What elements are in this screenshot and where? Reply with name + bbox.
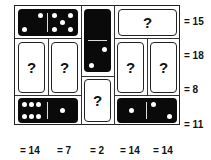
unknown-mark: ? xyxy=(143,14,152,31)
pip xyxy=(129,108,134,113)
pip xyxy=(68,13,73,18)
pip xyxy=(60,108,65,113)
grid-line xyxy=(114,6,115,125)
grid-line xyxy=(48,39,49,95)
col-sum-4: = 14 xyxy=(120,145,140,156)
domino-top-right[interactable]: ? xyxy=(118,9,177,36)
pip xyxy=(151,102,156,107)
domino-divider xyxy=(47,102,48,119)
pip xyxy=(52,13,57,18)
row-sum-3: = 8 xyxy=(184,84,198,95)
domino-bottom-right xyxy=(117,98,177,123)
unknown-mark: ? xyxy=(60,59,69,76)
domino-divider xyxy=(88,40,107,41)
unknown-mark: ? xyxy=(126,59,135,76)
col-sum-5: = 14 xyxy=(153,145,173,156)
col-sum-1: = 14 xyxy=(20,145,40,156)
pip xyxy=(68,27,73,32)
grid-line xyxy=(147,39,148,95)
row-sum-1: = 15 xyxy=(184,16,204,27)
unknown-mark: ? xyxy=(27,59,36,76)
pip xyxy=(22,114,27,119)
domino-center-top xyxy=(84,9,111,72)
pip xyxy=(102,47,107,52)
row-sum-4: = 11 xyxy=(184,119,203,130)
pip xyxy=(29,102,34,107)
domino-mid-col2[interactable]: ? xyxy=(51,42,78,93)
domino-mid-col1[interactable]: ? xyxy=(18,42,45,93)
unknown-mark: ? xyxy=(159,59,168,76)
pip xyxy=(22,102,27,107)
domino-divider xyxy=(47,13,48,32)
puzzle-grid: ? ? ? ? ? ? xyxy=(14,5,180,125)
domino-center-bottom[interactable]: ? xyxy=(84,79,111,122)
domino-top-left xyxy=(18,9,78,36)
grid-line xyxy=(81,76,114,77)
grid-line xyxy=(15,95,81,96)
pip xyxy=(89,63,94,68)
grid-line xyxy=(81,6,82,125)
pip xyxy=(60,20,65,25)
pip xyxy=(36,114,41,119)
domino-divider xyxy=(146,102,147,119)
pip xyxy=(167,114,172,119)
domino-mid-col4[interactable]: ? xyxy=(117,42,144,93)
pip xyxy=(36,102,41,107)
grid-line xyxy=(114,95,180,96)
domino-bottom-left xyxy=(18,98,78,123)
pip xyxy=(52,27,57,32)
pip xyxy=(38,13,43,18)
pip xyxy=(22,27,27,32)
domino-mid-col5[interactable]: ? xyxy=(150,42,177,93)
pip xyxy=(29,114,34,119)
col-sum-3: = 2 xyxy=(90,145,104,156)
unknown-mark: ? xyxy=(93,92,102,109)
row-sum-2: = 18 xyxy=(184,50,204,61)
col-sum-2: = 7 xyxy=(57,145,71,156)
